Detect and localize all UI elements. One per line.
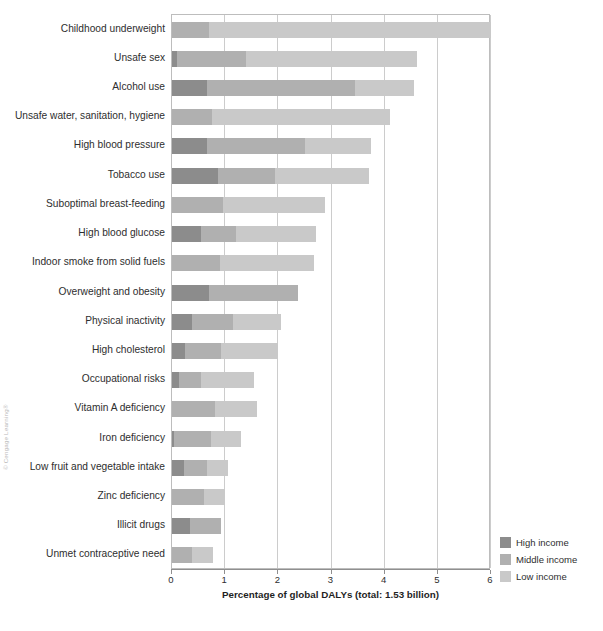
bar-segment-low <box>204 489 225 505</box>
category-label: Alcohol use <box>3 81 171 92</box>
legend: High incomeMiddle incomeLow income <box>500 534 600 585</box>
category-label: High blood glucose <box>3 227 171 238</box>
bar-row <box>172 372 491 388</box>
bar-row <box>172 518 491 534</box>
x-axis-title: Percentage of global DALYs (total: 1.53 … <box>171 589 490 600</box>
x-tick-label: 1 <box>222 574 227 585</box>
bar-segment-high <box>172 285 209 301</box>
bar-segment-high <box>172 372 179 388</box>
bar-segment-high <box>172 518 190 534</box>
bar-segment-low <box>192 547 213 563</box>
category-label: Overweight and obesity <box>3 286 171 297</box>
bar-segment-low <box>355 80 413 96</box>
x-tick-label: 3 <box>328 574 333 585</box>
bar-segment-mid <box>179 372 201 388</box>
bar-segment-high <box>172 168 218 184</box>
bar-segment-mid <box>172 255 220 271</box>
legend-item: High income <box>500 534 600 551</box>
bar-row <box>172 285 491 301</box>
bar-segment-mid <box>185 343 221 359</box>
bar-segment-mid <box>192 314 233 330</box>
category-label: Illicit drugs <box>3 519 171 530</box>
bar-segment-low <box>209 22 491 38</box>
bar-segment-mid <box>209 285 298 301</box>
bar-row <box>172 489 491 505</box>
bar-row <box>172 401 491 417</box>
category-label: Unsafe water, sanitation, hygiene <box>3 110 171 121</box>
category-label: Low fruit and vegetable intake <box>3 461 171 472</box>
bar-segment-mid <box>174 431 211 447</box>
bar-segment-low <box>212 109 390 125</box>
bar-row <box>172 255 491 271</box>
category-label: Vitamin A deficiency <box>3 402 171 413</box>
bar-row <box>172 51 491 67</box>
bar-segment-mid <box>207 138 305 154</box>
bar-segment-mid <box>172 489 204 505</box>
x-tick-label: 0 <box>168 574 173 585</box>
bar-segment-low <box>236 226 316 242</box>
bar-segment-mid <box>218 168 275 184</box>
bar-segment-high <box>172 80 207 96</box>
bar-row <box>172 431 491 447</box>
category-label: Unsafe sex <box>3 52 171 63</box>
bar-segment-low <box>220 255 314 271</box>
legend-label: Low income <box>516 571 567 582</box>
legend-item: Middle income <box>500 551 600 568</box>
bar-row <box>172 460 491 476</box>
x-tick-label: 2 <box>275 574 280 585</box>
legend-swatch-icon <box>500 537 511 548</box>
category-label: Physical inactivity <box>3 315 171 326</box>
bar-segment-high <box>172 226 201 242</box>
bar-segment-mid <box>184 460 206 476</box>
category-label: High blood pressure <box>3 139 171 150</box>
bar-segment-mid <box>172 22 209 38</box>
category-label-axis: Childhood underweightUnsafe sexAlcohol u… <box>0 14 171 569</box>
x-tick-label: 4 <box>381 574 386 585</box>
bar-segment-low <box>233 314 281 330</box>
bar-segment-low <box>305 138 371 154</box>
bar-segment-low <box>221 343 278 359</box>
category-label: Iron deficiency <box>3 432 171 443</box>
bar-row <box>172 22 491 38</box>
bar-segment-high <box>172 460 184 476</box>
bar-segment-mid <box>201 226 236 242</box>
bar-segment-mid <box>172 547 192 563</box>
bar-segment-high <box>172 343 185 359</box>
legend-item: Low income <box>500 568 600 585</box>
category-label: High cholesterol <box>3 344 171 355</box>
bar-segment-high <box>172 138 207 154</box>
category-label: Zinc deficiency <box>3 490 171 501</box>
bar-segment-mid <box>190 518 221 534</box>
bar-segment-high <box>172 314 192 330</box>
bar-segment-low <box>207 460 228 476</box>
category-label: Tobacco use <box>3 169 171 180</box>
bar-row <box>172 226 491 242</box>
bar-segment-mid <box>207 80 356 96</box>
bar-segment-mid <box>177 51 246 67</box>
bar-segment-mid <box>172 109 212 125</box>
bar-row <box>172 80 491 96</box>
bar-row <box>172 314 491 330</box>
legend-label: Middle income <box>516 554 577 565</box>
bar-row <box>172 197 491 213</box>
category-label: Indoor smoke from solid fuels <box>3 256 171 267</box>
plot-area <box>171 14 490 569</box>
category-label: Suboptimal breast-feeding <box>3 198 171 209</box>
x-tick-label: 6 <box>487 574 492 585</box>
bar-segment-low <box>275 168 369 184</box>
bar-row <box>172 343 491 359</box>
category-label: Unmet contraceptive need <box>3 548 171 559</box>
category-label: Childhood underweight <box>3 23 171 34</box>
bar-segment-low <box>201 372 254 388</box>
legend-swatch-icon <box>500 554 511 565</box>
legend-label: High income <box>516 537 569 548</box>
bar-row <box>172 547 491 563</box>
bar-segment-low <box>215 401 258 417</box>
bar-segment-low <box>223 197 325 213</box>
bar-segment-low <box>211 431 241 447</box>
bar-row <box>172 109 491 125</box>
bar-row <box>172 138 491 154</box>
bar-segment-mid <box>172 401 215 417</box>
legend-swatch-icon <box>500 571 511 582</box>
stacked-bar-chart: © Cengage Learning® Childhood underweigh… <box>0 0 603 631</box>
